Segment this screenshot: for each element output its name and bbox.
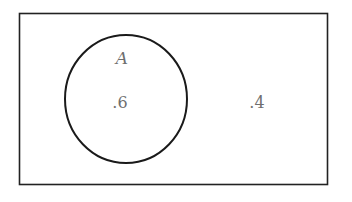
outside-value: .4 — [249, 93, 264, 112]
set-a-value: .6 — [112, 93, 127, 112]
venn-diagram: A .6 .4 — [0, 0, 352, 202]
set-a-label: A — [114, 48, 128, 68]
